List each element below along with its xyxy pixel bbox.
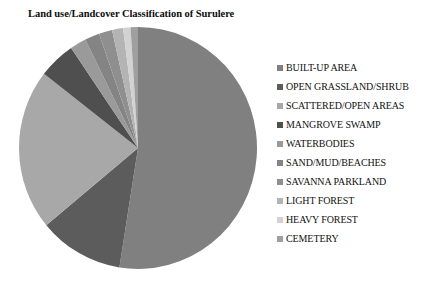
legend-item: SCATTERED/OPEN AREAS bbox=[277, 96, 427, 115]
legend-swatch-icon bbox=[277, 141, 283, 147]
legend-item-label: LIGHT FOREST bbox=[286, 195, 354, 206]
legend-swatch-icon bbox=[277, 179, 283, 185]
legend-item-label: SCATTERED/OPEN AREAS bbox=[286, 100, 404, 111]
legend-swatch-icon bbox=[277, 65, 283, 71]
legend-item-label: MANGROVE SWAMP bbox=[286, 119, 380, 130]
legend-item: LIGHT FOREST bbox=[277, 191, 427, 210]
pie-chart-figure: Land use/Landcover Classification of Sur… bbox=[0, 0, 428, 286]
legend-item: OPEN GRASSLAND/SHRUB bbox=[277, 77, 427, 96]
legend-item: WATERBODIES bbox=[277, 134, 427, 153]
legend-item-label: HEAVY FOREST bbox=[286, 214, 358, 225]
pie-slice-group bbox=[19, 27, 257, 269]
legend-swatch-icon bbox=[277, 103, 283, 109]
legend-item-label: CEMETERY bbox=[286, 233, 339, 244]
legend-item: HEAVY FOREST bbox=[277, 210, 427, 229]
legend-item: SAVANNA PARKLAND bbox=[277, 172, 427, 191]
legend-item-label: SAVANNA PARKLAND bbox=[286, 176, 386, 187]
legend-item-label: WATERBODIES bbox=[286, 138, 354, 149]
legend-swatch-icon bbox=[277, 122, 283, 128]
pie-slice bbox=[119, 27, 257, 269]
chart-legend: BUILT-UP AREAOPEN GRASSLAND/SHRUBSCATTER… bbox=[277, 58, 427, 248]
legend-swatch-icon bbox=[277, 198, 283, 204]
legend-item-label: BUILT-UP AREA bbox=[286, 62, 357, 73]
legend-item: MANGROVE SWAMP bbox=[277, 115, 427, 134]
legend-item: CEMETERY bbox=[277, 229, 427, 248]
legend-swatch-icon bbox=[277, 160, 283, 166]
legend-swatch-icon bbox=[277, 84, 283, 90]
legend-item: BUILT-UP AREA bbox=[277, 58, 427, 77]
legend-item: SAND/MUD/BEACHES bbox=[277, 153, 427, 172]
pie-chart-svg bbox=[18, 26, 262, 272]
legend-item-label: SAND/MUD/BEACHES bbox=[286, 157, 386, 168]
legend-swatch-icon bbox=[277, 217, 283, 223]
legend-item-label: OPEN GRASSLAND/SHRUB bbox=[286, 81, 409, 92]
pie-chart-plot-area bbox=[18, 26, 262, 272]
chart-title: Land use/Landcover Classification of Sur… bbox=[28, 8, 234, 19]
legend-swatch-icon bbox=[277, 236, 283, 242]
